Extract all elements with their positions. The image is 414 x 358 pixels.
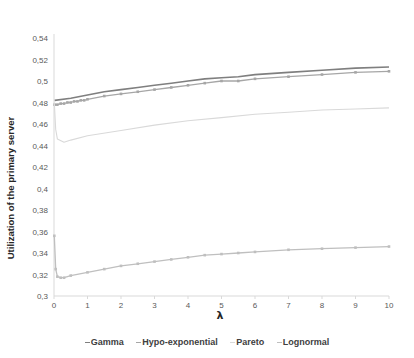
series-line	[54, 236, 389, 278]
data-point-marker	[321, 247, 324, 250]
line-chart: 0,30,320,340,360,380,40,420,440,460,480,…	[0, 0, 414, 358]
legend-item-gamma: Gamma	[85, 337, 124, 347]
y-axis-ticks: 0,30,320,340,360,380,40,420,440,460,480,…	[32, 34, 48, 301]
x-tick-label: 4	[186, 301, 191, 310]
y-tick-label: 0,3	[37, 292, 49, 301]
data-point-marker	[254, 78, 257, 81]
legend-item-pareto: Pareto	[230, 337, 264, 347]
data-point-marker	[187, 256, 190, 259]
data-point-marker	[153, 260, 156, 263]
x-tick-label: 8	[320, 301, 325, 310]
y-tick-label: 0,5	[37, 77, 49, 86]
chart-legend: Gamma Hypo-exponential Pareto Lognormal	[0, 337, 414, 347]
legend-swatch-gamma	[85, 342, 90, 344]
data-point-marker	[354, 71, 357, 74]
y-axis-label: Utilization of the primary server	[5, 116, 16, 259]
legend-item-hypo-exponential: Hypo-exponential	[136, 337, 218, 347]
legend-swatch-hypo-exponential	[136, 342, 141, 344]
x-axis-ticks: 012345678910	[52, 296, 394, 310]
data-point-marker	[237, 252, 240, 255]
y-tick-label: 0,34	[32, 249, 48, 258]
y-tick-label: 0,42	[32, 163, 48, 172]
data-point-marker	[136, 90, 139, 93]
y-tick-label: 0,36	[32, 228, 48, 237]
data-point-marker	[354, 246, 357, 249]
series-lognormal	[53, 235, 390, 280]
chart-series	[53, 67, 390, 279]
data-point-marker	[388, 245, 391, 248]
data-point-marker	[388, 70, 391, 73]
data-point-marker	[59, 102, 62, 105]
legend-item-lognormal: Lognormal	[277, 337, 330, 347]
series-hypo-exponential	[53, 70, 390, 106]
data-point-marker	[120, 265, 123, 268]
x-tick-label: 9	[353, 301, 358, 310]
y-tick-label: 0,32	[32, 271, 48, 280]
legend-label: Lognormal	[283, 337, 330, 347]
data-point-marker	[56, 103, 59, 106]
x-tick-label: 3	[152, 301, 157, 310]
data-point-marker	[56, 275, 59, 278]
data-point-marker	[76, 100, 79, 103]
x-tick-label: 7	[286, 301, 291, 310]
series-pareto	[54, 103, 389, 143]
data-point-marker	[83, 99, 86, 102]
data-point-marker	[86, 271, 89, 274]
y-tick-label: 0,38	[32, 206, 48, 215]
data-point-marker	[63, 276, 66, 279]
data-point-marker	[220, 253, 223, 256]
data-point-marker	[170, 258, 173, 261]
x-tick-label: 1	[85, 301, 90, 310]
data-point-marker	[54, 268, 57, 271]
data-point-marker	[203, 82, 206, 85]
data-point-marker	[66, 101, 69, 104]
data-point-marker	[80, 99, 83, 102]
data-point-marker	[103, 268, 106, 271]
data-point-marker	[103, 95, 106, 98]
data-point-marker	[170, 86, 173, 89]
y-tick-label: 0,46	[32, 120, 48, 129]
legend-label: Pareto	[236, 337, 264, 347]
data-point-marker	[254, 251, 257, 254]
data-point-marker	[153, 88, 156, 91]
data-point-marker	[69, 101, 72, 104]
data-point-marker	[203, 254, 206, 257]
series-line	[54, 103, 389, 143]
data-point-marker	[86, 98, 89, 101]
y-tick-label: 0,48	[32, 99, 48, 108]
data-point-marker	[53, 235, 56, 238]
data-point-marker	[63, 102, 66, 105]
legend-label: Gamma	[91, 337, 124, 347]
data-point-marker	[69, 274, 72, 277]
x-tick-label: 10	[385, 301, 394, 310]
legend-swatch-lognormal	[277, 342, 282, 344]
legend-label: Hypo-exponential	[142, 337, 218, 347]
data-point-marker	[120, 93, 123, 96]
data-point-marker	[73, 100, 76, 103]
y-tick-label: 0,4	[37, 185, 49, 194]
x-tick-label: 0	[52, 301, 57, 310]
y-tick-label: 0,54	[32, 34, 48, 43]
data-point-marker	[187, 84, 190, 87]
y-tick-label: 0,44	[32, 142, 48, 151]
x-tick-label: 6	[253, 301, 258, 310]
legend-swatch-pareto	[230, 342, 235, 344]
data-point-marker	[59, 276, 62, 279]
data-point-marker	[321, 73, 324, 76]
y-tick-label: 0,52	[32, 56, 48, 65]
data-point-marker	[287, 75, 290, 78]
x-tick-label: 2	[119, 301, 124, 310]
data-point-marker	[287, 248, 290, 251]
data-point-marker	[237, 80, 240, 83]
series-line	[55, 71, 389, 104]
data-point-marker	[220, 80, 223, 83]
data-point-marker	[136, 262, 139, 265]
x-axis-label: λ	[217, 309, 224, 322]
